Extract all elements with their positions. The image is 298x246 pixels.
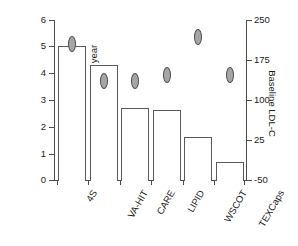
- x-category-label-care: CARE: [154, 188, 177, 216]
- bar-lipid: [153, 110, 181, 181]
- x-tick-0: [57, 181, 58, 185]
- bar-4s: [58, 46, 86, 181]
- x-tick-4: [183, 181, 184, 185]
- y-ticklabel-left-1: 1: [30, 148, 46, 159]
- marker-ldl-va-hit: [100, 73, 108, 89]
- x-tick-3: [151, 181, 152, 185]
- y-tick-left-0: [49, 180, 54, 181]
- y-tick-left-5: [49, 46, 54, 47]
- x-tick-1: [88, 181, 89, 185]
- x-tick-6: [244, 181, 245, 185]
- x-tick-5: [214, 181, 215, 185]
- x-category-label-4s: 4S: [84, 188, 99, 204]
- x-category-label-va-hit: VA-HIT: [125, 188, 150, 220]
- y-ticklabel-left-5: 5: [30, 40, 46, 51]
- y-tick-left-1: [49, 154, 54, 155]
- y-ticklabel-left-2: 2: [30, 121, 46, 132]
- y-tick-right-100: [247, 100, 252, 101]
- y-ticklabel-left-3: 3: [30, 94, 46, 105]
- y-ticklabel-left-0: 0: [30, 174, 46, 185]
- marker-ldl-wscot: [194, 29, 202, 45]
- y-tick-left-2: [49, 127, 54, 128]
- bar-care: [121, 108, 149, 181]
- y-ticklabel-right--50: -50: [254, 174, 268, 185]
- y-tick-right-175: [247, 60, 252, 61]
- marker-ldl-care: [131, 73, 139, 89]
- marker-ldl-4s: [68, 36, 76, 52]
- marker-ldl-texcaps: [226, 67, 234, 83]
- y-tick-right-25: [247, 140, 252, 141]
- y-tick-right--50: [247, 180, 252, 181]
- y-ticklabel-right-25: 25: [254, 134, 265, 145]
- y-ticklabel-left-6: 6: [30, 14, 46, 25]
- chart-figure: % CV events per year Placebo Baseline LD…: [0, 0, 298, 246]
- x-category-label-lipid: LIPID: [185, 188, 206, 214]
- y-ticklabel-right-250: 250: [254, 14, 270, 25]
- bar-wscot: [184, 137, 212, 181]
- y-tick-left-3: [49, 100, 54, 101]
- marker-ldl-lipid: [163, 67, 171, 83]
- x-tick-2: [120, 181, 121, 185]
- y-ticklabel-left-4: 4: [30, 67, 46, 78]
- y-tick-left-4: [49, 73, 54, 74]
- y-ticklabel-right-175: 175: [254, 54, 270, 65]
- y-axis-left-spine: [54, 20, 55, 181]
- x-category-label-texcaps: TEXCaps: [256, 188, 286, 229]
- y-tick-right-250: [247, 20, 252, 21]
- y-ticklabel-right-100: 100: [254, 94, 270, 105]
- bar-texcaps: [216, 162, 244, 181]
- y-tick-left-6: [49, 20, 54, 21]
- x-category-label-wscot: WSCOT: [222, 188, 249, 224]
